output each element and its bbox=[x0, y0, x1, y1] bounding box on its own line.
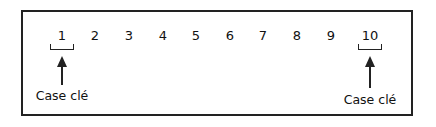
cell-number: 10 bbox=[362, 28, 379, 44]
cell-number: 5 bbox=[192, 28, 200, 44]
cell-number: 6 bbox=[226, 28, 234, 44]
key-cell-label: Case clé bbox=[36, 88, 89, 103]
cell-number: 4 bbox=[159, 28, 167, 44]
key-cell-label: Case clé bbox=[344, 92, 397, 107]
cell-number: 9 bbox=[327, 28, 335, 44]
cell-number: 1 bbox=[58, 28, 66, 44]
bracket-icon bbox=[50, 44, 74, 50]
cell-number: 3 bbox=[125, 28, 133, 44]
cell-number: 7 bbox=[259, 28, 267, 44]
bracket-icon bbox=[358, 44, 382, 50]
cell-number: 2 bbox=[91, 28, 99, 44]
cell-number: 8 bbox=[293, 28, 301, 44]
